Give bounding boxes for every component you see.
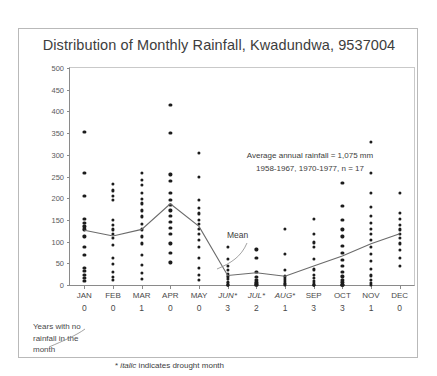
scatter-point (169, 198, 172, 201)
scatter-point (398, 242, 401, 245)
scatter-point (169, 242, 172, 245)
y-tick-mark (67, 111, 70, 112)
scatter-point (111, 224, 114, 227)
scatter-point (341, 204, 344, 207)
y-tick-mark (67, 285, 70, 286)
annotation-block: Average annual rainfall = 1,075 mm 1958-… (205, 149, 415, 175)
y-tick-label: 450 (51, 85, 64, 94)
scatter-point (197, 273, 200, 276)
y-tick-label: 300 (51, 150, 64, 159)
scatter-point (83, 245, 86, 248)
scatter-point (169, 261, 172, 264)
scatter-point (140, 228, 143, 231)
scatter-point (169, 132, 172, 135)
scatter-point (341, 218, 344, 221)
scatter-point (111, 198, 114, 201)
y-tick-label: 500 (51, 64, 64, 73)
scatter-point (169, 232, 172, 235)
scatter-point (197, 278, 200, 281)
scatter-point (197, 232, 200, 235)
scatter-point (369, 267, 372, 270)
scatter-point (140, 209, 143, 212)
scatter-point (111, 228, 114, 231)
scatter-point (169, 226, 172, 229)
scatter-point (255, 270, 258, 273)
scatter-point (197, 245, 200, 248)
scatter-point (312, 217, 315, 220)
scatter-point (169, 209, 172, 212)
zero-rainfall-count-apr: 0 (168, 303, 173, 313)
x-tick-label-oct: OCT (334, 291, 351, 300)
scatter-point (341, 264, 344, 267)
y-tick-mark (67, 90, 70, 91)
scatter-point (140, 271, 143, 274)
scatter-point (255, 248, 258, 251)
scatter-point (197, 175, 200, 178)
scatter-point (341, 228, 344, 231)
annotation-line-2: 1958-1967, 1970-1977, n = 17 (205, 162, 415, 175)
drought-note-rest: indicates drought month (139, 361, 224, 370)
scatter-point (341, 244, 344, 247)
scatter-point (226, 257, 229, 260)
x-tick-mark (400, 285, 401, 289)
scatter-point (369, 191, 372, 194)
x-tick-label-jul: JUL* (248, 291, 265, 300)
scatter-point (111, 218, 114, 221)
scatter-point (312, 232, 315, 235)
scatter-point (111, 263, 114, 266)
y-tick-mark (67, 198, 70, 199)
scatter-point (140, 171, 143, 174)
scatter-point (369, 238, 372, 241)
scatter-point (169, 220, 172, 223)
scatter-point (83, 131, 86, 134)
zero-rainfall-count-jul: 2 (254, 303, 259, 313)
y-tick-mark (67, 133, 70, 134)
scatter-point (369, 232, 372, 235)
x-tick-label-aug: AUG* (275, 291, 295, 300)
scatter-point (83, 253, 86, 256)
scatter-point (140, 178, 143, 181)
y-tick-label: 200 (51, 194, 64, 203)
y-tick-label: 250 (51, 172, 64, 181)
scatter-point (197, 256, 200, 259)
scatter-point (398, 249, 401, 252)
scatter-point (83, 235, 86, 238)
zero-rainfall-count-jan: 0 (82, 303, 87, 313)
scatter-point (140, 242, 143, 245)
scatter-point (369, 274, 372, 277)
zero-rainfall-note: Years with no rainfall in the month (33, 321, 83, 356)
scatter-point (398, 224, 401, 227)
scatter-point (197, 238, 200, 241)
x-tick-mark (170, 285, 171, 289)
drought-note-asterisk: * (115, 361, 118, 370)
scatter-point (197, 218, 200, 221)
scatter-point (140, 184, 143, 187)
plot-area: 050100150200250300350400450500 JAN0FEB0M… (69, 67, 415, 286)
y-tick-label: 400 (51, 107, 64, 116)
y-axis-label: Rainfall in mm (41, 95, 53, 312)
scatter-point (111, 232, 114, 235)
scatter-point (341, 251, 344, 254)
scatter-point (111, 183, 114, 186)
y-tick-label: 0 (60, 281, 64, 290)
scatter-point (312, 245, 315, 248)
scatter-point (341, 258, 344, 261)
drought-note-italic-word: italic (120, 361, 136, 370)
scatter-point (369, 205, 372, 208)
scatter-point (226, 264, 229, 267)
scatter-point (111, 237, 114, 240)
x-tick-label-mar: MAR (133, 291, 151, 300)
x-tick-label-nov: NOV (362, 291, 379, 300)
scatter-point (169, 214, 172, 217)
scatter-point (140, 197, 143, 200)
zero-rainfall-count-nov: 1 (369, 303, 374, 313)
scatter-point (283, 227, 286, 230)
zero-rainfall-count-may: 0 (197, 303, 202, 313)
scatter-point (283, 269, 286, 272)
scatter-point (83, 194, 86, 197)
x-tick-label-feb: FEB (105, 291, 121, 300)
scatter-point (283, 283, 286, 286)
scatter-point (369, 283, 372, 286)
scatter-point (83, 279, 86, 282)
scatter-point (169, 179, 172, 182)
